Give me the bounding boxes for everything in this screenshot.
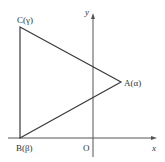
vertex-b-label: B(β) bbox=[16, 143, 33, 153]
y-axis-arrow-icon bbox=[91, 13, 95, 19]
y-axis bbox=[91, 13, 95, 157]
y-axis-label: y bbox=[84, 7, 89, 17]
origin-label: O bbox=[83, 143, 90, 153]
triangle-abc bbox=[20, 27, 121, 138]
x-axis-arrow-icon bbox=[151, 136, 157, 140]
vertex-c-label: C(γ) bbox=[17, 15, 33, 25]
diagram-canvas: C(γ) A(α) B(β) O x y bbox=[0, 0, 165, 162]
x-axis-label: x bbox=[151, 143, 156, 153]
x-axis bbox=[8, 136, 157, 140]
vertex-a-label: A(α) bbox=[124, 78, 141, 88]
